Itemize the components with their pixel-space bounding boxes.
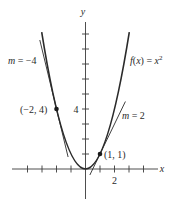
function-label: f(x) = x2 [130,54,163,67]
x-axis-label: x [159,163,165,174]
slope-label-2: m = 2 [122,110,145,121]
point-label-1-1: (1, 1) [104,149,126,161]
slope-label-neg4: m = −4 [8,55,37,66]
tangent-line-m-2 [90,102,126,176]
point-label-neg2-4: (−2, 4) [20,104,47,116]
point-1-1 [98,152,103,157]
y-axis-label: y [80,6,86,17]
point-neg2-4 [54,107,59,112]
tangent-line-m-neg4 [40,40,68,157]
parabola-tangent-diagram: y x 2 4 (−2, 4) (1, 1) m = −4 m = 2 f(x)… [0,0,173,209]
x-tick-label-2: 2 [112,175,117,186]
y-tick-label-4: 4 [74,104,79,115]
